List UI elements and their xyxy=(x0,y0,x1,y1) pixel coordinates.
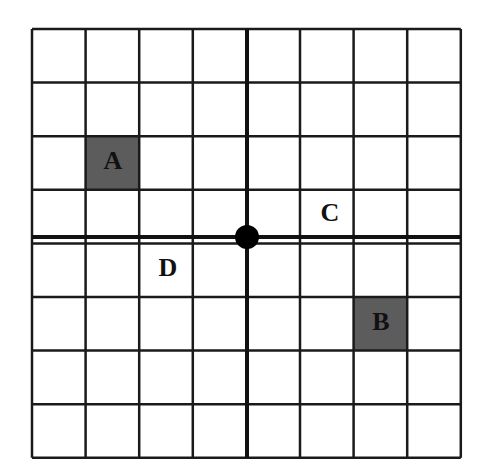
origin-point xyxy=(235,225,259,249)
label-b: B xyxy=(372,307,389,336)
label-a: A xyxy=(104,146,123,175)
grid-diagram: ABCD xyxy=(0,0,486,467)
label-d: D xyxy=(159,253,178,282)
label-c: C xyxy=(321,198,340,227)
